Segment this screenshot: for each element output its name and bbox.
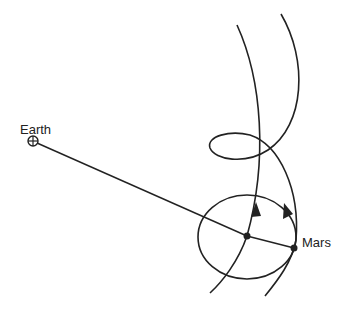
epicycle-center-dot — [244, 233, 251, 240]
earth-to-center-line — [37, 143, 247, 236]
mars-path-curve — [210, 14, 299, 296]
earth-label: Earth — [20, 122, 51, 137]
earth-symbol-icon — [28, 136, 38, 146]
mars-label: Mars — [302, 235, 331, 250]
epicycle-radius-line — [247, 236, 294, 248]
epicycle-diagram — [0, 0, 356, 315]
arrow-epicycle-icon — [283, 203, 293, 219]
mars-dot — [291, 245, 298, 252]
